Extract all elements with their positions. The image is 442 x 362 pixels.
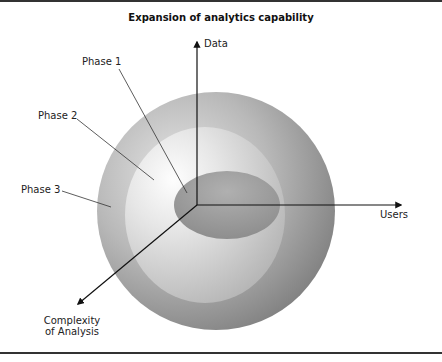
phase-1-label: Phase 1 — [82, 56, 121, 67]
users-axis-label: Users — [380, 209, 408, 220]
phase-2-label: Phase 2 — [38, 110, 77, 121]
data-axis-label: Data — [204, 38, 228, 49]
diagram-frame: Expansion of analytics capability — [0, 0, 442, 362]
complexity-axis-label: Complexity of Analysis — [40, 315, 104, 337]
complexity-axis-label-line1: Complexity — [40, 315, 104, 326]
complexity-axis-label-line2: of Analysis — [40, 326, 104, 337]
sphere-diagram — [0, 0, 442, 362]
phase-3-label: Phase 3 — [21, 184, 60, 195]
